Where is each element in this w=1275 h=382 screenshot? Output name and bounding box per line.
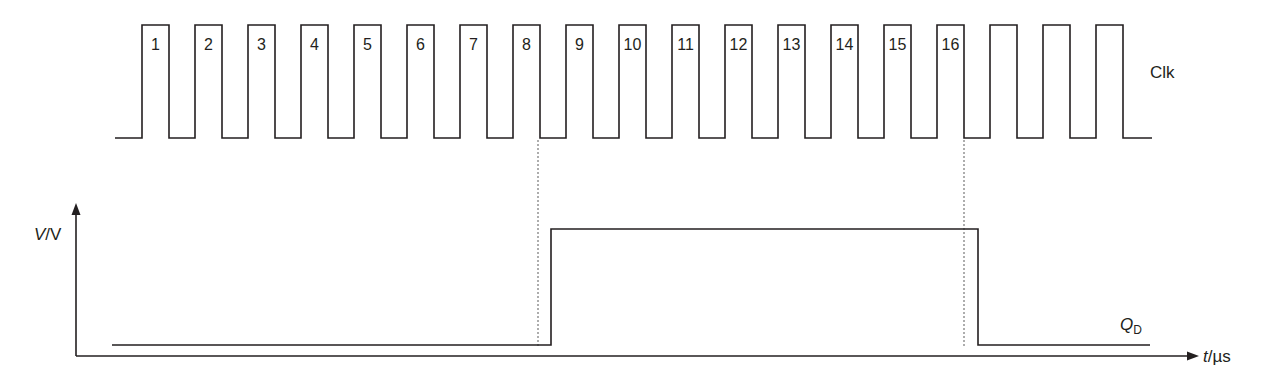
clock-pulse-label: 13 bbox=[783, 36, 801, 53]
y-axis-arrow-icon bbox=[72, 203, 81, 215]
clock-pulse-label: 14 bbox=[836, 36, 854, 53]
clock-pulse-label: 9 bbox=[575, 36, 584, 53]
clock-label: Clk bbox=[1150, 63, 1175, 82]
clock-pulse-label: 7 bbox=[469, 36, 478, 53]
clock-pulse-label: 12 bbox=[730, 36, 748, 53]
x-axis-arrow-icon bbox=[1187, 352, 1199, 361]
clock-pulse-label: 3 bbox=[257, 36, 266, 53]
qd-label: QD bbox=[1120, 315, 1142, 337]
clock-pulse-label: 16 bbox=[942, 36, 960, 53]
clock-pulse-label: 11 bbox=[677, 36, 694, 53]
timing-diagram: 12345678910111213141516 Clk V/V t/µs QD bbox=[0, 0, 1275, 382]
clock-pulse-label: 5 bbox=[363, 36, 372, 53]
x-axis-label: t/µs bbox=[1203, 347, 1231, 366]
y-axis-label: V/V bbox=[34, 225, 62, 244]
clock-pulse-label: 6 bbox=[416, 36, 425, 53]
clock-pulse-label: 4 bbox=[310, 36, 319, 53]
qd-waveform bbox=[112, 229, 1150, 345]
clock-pulse-label: 15 bbox=[889, 36, 907, 53]
clock-pulse-label: 8 bbox=[522, 36, 531, 53]
clock-pulse-label: 1 bbox=[151, 36, 160, 53]
clock-pulse-label: 10 bbox=[624, 36, 642, 53]
clock-pulse-label: 2 bbox=[204, 36, 213, 53]
clock-pulse-labels: 12345678910111213141516 bbox=[151, 36, 959, 53]
